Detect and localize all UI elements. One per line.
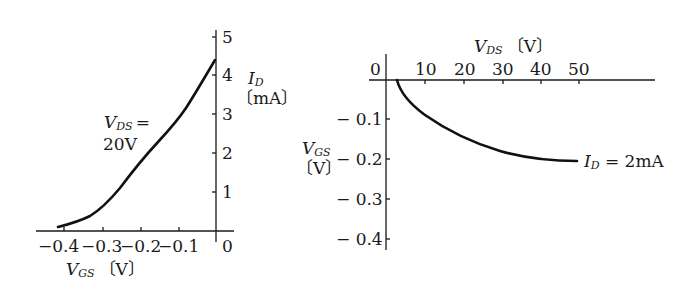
left-y-tick-5: 5 [222, 27, 233, 47]
right-annotation-id: ID = 2mA [583, 151, 665, 172]
right-x-tick-50: 50 [568, 59, 590, 79]
left-x-tick--0.1: −0.1 [158, 236, 199, 256]
left-y-tick-2: 2 [222, 143, 233, 163]
left-y-tick-4: 4 [222, 65, 233, 85]
left-annotation-vds: VDS= [104, 112, 150, 133]
left-x-tick--0.2: −0.2 [120, 236, 161, 256]
right-y-axis-unit: 〔V〕 [296, 158, 342, 178]
left-x-tick-labels: −0.4 −0.3 −0.2 −0.1 0 [38, 236, 233, 256]
left-y-tick-labels: 5 4 3 2 1 [222, 27, 233, 202]
right-x-tick-40: 40 [530, 59, 552, 79]
figure: 5 4 3 2 1 −0.4 −0.3 −0.2 −0.1 0 ID 〔mA〕 … [0, 0, 694, 293]
right-y-tick--0.1: − 0.1 [336, 109, 383, 129]
right-x-axis-label: VDS〔V〕 [474, 36, 553, 57]
left-y-axis-unit: 〔mA〕 [236, 88, 298, 108]
left-annotation-value: 20V [103, 134, 138, 154]
left-y-tick-1: 1 [222, 182, 233, 202]
right-x-tick-30: 30 [492, 59, 514, 79]
left-y-tick-3: 3 [222, 104, 233, 124]
right-curve-vgs-vs-vds [397, 80, 577, 161]
constant-current-chart: 0 10 20 30 40 50 − 0.1 − 0.2 − 0.3 − 0.4… [296, 36, 665, 250]
right-x-tick-20: 20 [454, 59, 476, 79]
left-x-tick--0.3: −0.3 [81, 236, 122, 256]
left-y-axis-label: ID [247, 68, 264, 89]
right-y-tick--0.2: − 0.2 [336, 149, 383, 169]
left-x-tick-0: 0 [222, 236, 233, 256]
right-y-tick--0.4: − 0.4 [336, 229, 383, 249]
right-y-tick--0.3: − 0.3 [336, 189, 383, 209]
right-x-tick-labels: 0 10 20 30 40 50 [370, 59, 590, 79]
right-y-tick-labels: − 0.1 − 0.2 − 0.3 − 0.4 [336, 109, 383, 249]
right-y-axis-label: VGS [302, 138, 331, 159]
transfer-characteristic-chart: 5 4 3 2 1 −0.4 −0.3 −0.2 −0.1 0 ID 〔mA〕 … [36, 27, 298, 280]
right-x-tick-10: 10 [415, 59, 437, 79]
left-x-axis-label: VGS〔V〕 [66, 259, 145, 280]
right-x-tick-0: 0 [370, 59, 381, 79]
left-x-tick--0.4: −0.4 [38, 236, 79, 256]
